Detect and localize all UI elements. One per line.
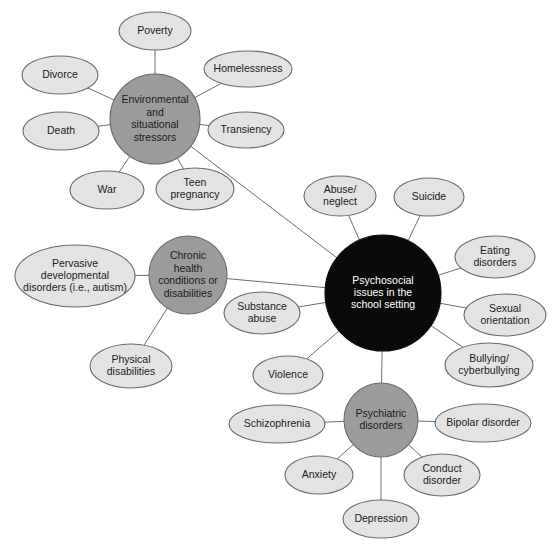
node-war[interactable]: War	[70, 171, 144, 209]
node-label-line: Substance	[237, 300, 287, 312]
node-label-violence: Violence	[268, 368, 308, 380]
node-label-line: Conduct	[422, 462, 461, 474]
node-label-war: War	[98, 183, 117, 195]
node-label-line: Physical	[111, 353, 150, 365]
node-label-divorce: Divorce	[42, 68, 78, 80]
edge-psychiatric-disorders-to-anxiety	[337, 445, 353, 459]
node-label-homelessness: Homelessness	[214, 62, 283, 74]
node-label-line: disorder	[423, 474, 461, 486]
node-suicide[interactable]: Suicide	[394, 178, 464, 216]
node-label-line: Violence	[268, 368, 308, 380]
node-label-line: Homelessness	[214, 62, 283, 74]
node-environmental-stressors[interactable]: Environmentalandsituationalstressors	[110, 74, 200, 164]
node-label-line: situational	[131, 118, 178, 130]
node-label-line: Eating	[480, 244, 510, 256]
node-abuse-neglect[interactable]: Abuse/neglect	[304, 176, 376, 216]
node-label-line: abuse	[248, 312, 277, 324]
edge-psychosocial-issues-to-violence	[307, 331, 339, 359]
node-label-poverty: Poverty	[137, 24, 173, 36]
node-label-line: health	[174, 262, 203, 274]
node-pervasive-developmental-disorders[interactable]: Pervasivedevelopmentaldisorders (i.e., a…	[15, 245, 135, 307]
node-label-death: Death	[47, 124, 75, 136]
node-label-bipolar-disorder: Bipolar disorder	[446, 416, 520, 428]
node-transiency[interactable]: Transiency	[208, 112, 284, 148]
node-label-line: Psychiatric	[356, 407, 407, 419]
node-chronic-health[interactable]: Chronichealthconditions ordisabilities	[149, 236, 227, 314]
node-label-depression: Depression	[354, 512, 407, 524]
edge-psychosocial-issues-to-abuse-neglect	[349, 215, 360, 240]
node-label-line: Bullying/	[469, 352, 509, 364]
node-label-line: issues in the	[354, 286, 413, 298]
edge-chronic-health-to-physical-disabilities	[144, 308, 167, 345]
node-label-schizophrenia: Schizophrenia	[244, 417, 311, 429]
edge-psychosocial-issues-to-sexual-orientation	[440, 303, 466, 308]
node-label-line: Depression	[354, 512, 407, 524]
node-psychiatric-disorders[interactable]: Psychiatricdisorders	[344, 383, 418, 457]
node-label-line: disabilities	[107, 365, 155, 377]
edge-psychiatric-disorders-to-bipolar-disorder	[418, 421, 435, 422]
node-label-line: Divorce	[42, 68, 78, 80]
node-label-line: Suicide	[412, 190, 447, 202]
concept-map-canvas: PovertyHomelessnessTransiencyTeenpregnan…	[0, 0, 552, 545]
node-conduct-disorder[interactable]: Conductdisorder	[404, 454, 480, 496]
node-label-line: Psychosocial	[352, 273, 413, 285]
node-sexual-orientation[interactable]: Sexualorientation	[464, 294, 546, 336]
edge-psychosocial-issues-to-substance-abuse	[298, 302, 325, 307]
node-label-line: Transiency	[221, 123, 273, 135]
edge-psychosocial-issues-to-suicide	[408, 215, 420, 240]
node-label-line: cyberbullying	[458, 364, 519, 376]
edge-environmental-stressors-to-teen-pregnancy	[177, 158, 183, 169]
node-label-line: conditions or	[158, 274, 218, 286]
node-label-line: Death	[47, 124, 75, 136]
node-label-line: Chronic	[170, 249, 206, 261]
edge-environmental-stressors-to-death	[98, 125, 111, 127]
node-label-line: disorders	[473, 256, 516, 268]
edge-psychiatric-disorders-to-psychosocial-issues	[382, 351, 383, 383]
node-label-line: stressors	[134, 130, 177, 142]
node-teen-pregnancy[interactable]: Teenpregnancy	[156, 168, 234, 210]
node-divorce[interactable]: Divorce	[22, 56, 98, 94]
node-label-line: disorders (i.e., autism)	[23, 281, 127, 293]
edge-psychosocial-issues-to-bullying-cyberbullying	[431, 326, 463, 348]
node-psychosocial-issues[interactable]: Psychosocialissues in theschool setting	[325, 235, 441, 351]
edge-environmental-stressors-to-transiency	[200, 124, 210, 125]
node-label-line: orientation	[480, 314, 529, 326]
edge-psychiatric-disorders-to-schizophrenia	[325, 421, 344, 422]
node-label-line: Bipolar disorder	[446, 416, 520, 428]
node-bullying-cyberbullying[interactable]: Bullying/cyberbullying	[445, 343, 533, 387]
node-label-line: neglect	[323, 195, 357, 207]
node-label-line: developmental	[41, 269, 109, 281]
node-anxiety[interactable]: Anxiety	[285, 456, 353, 494]
node-label-line: Poverty	[137, 24, 173, 36]
node-label-conduct-disorder: Conductdisorder	[422, 462, 461, 486]
node-label-line: Anxiety	[302, 468, 337, 480]
edge-environmental-stressors-to-homelessness	[195, 83, 222, 97]
node-eating-disorders[interactable]: Eatingdisorders	[455, 236, 535, 278]
node-label-abuse-neglect: Abuse/neglect	[323, 183, 357, 207]
node-label-line: War	[98, 183, 117, 195]
node-substance-abuse[interactable]: Substanceabuse	[224, 292, 300, 334]
node-label-psychosocial-issues: Psychosocialissues in theschool setting	[351, 273, 415, 310]
node-label-line: Schizophrenia	[244, 417, 311, 429]
node-depression[interactable]: Depression	[343, 500, 419, 538]
node-schizophrenia[interactable]: Schizophrenia	[229, 405, 325, 443]
node-label-line: school setting	[351, 298, 415, 310]
node-label-line: Environmental	[121, 93, 188, 105]
edge-environmental-stressors-to-divorce	[88, 88, 114, 100]
node-label-suicide: Suicide	[412, 190, 447, 202]
edge-psychiatric-disorders-to-conduct-disorder	[408, 445, 422, 457]
node-physical-disabilities[interactable]: Physicaldisabilities	[90, 344, 172, 388]
node-death[interactable]: Death	[23, 112, 99, 150]
node-label-line: disabilities	[164, 286, 212, 298]
node-label-line: Abuse/	[324, 183, 357, 195]
node-violence[interactable]: Violence	[253, 356, 323, 394]
node-label-line: Teen	[184, 176, 207, 188]
edge-environmental-stressors-to-war	[119, 156, 130, 172]
node-homelessness[interactable]: Homelessness	[204, 51, 292, 87]
node-bipolar-disorder[interactable]: Bipolar disorder	[435, 404, 531, 442]
node-poverty[interactable]: Poverty	[119, 12, 191, 50]
node-label-line: and	[146, 106, 164, 118]
node-label-line: pregnancy	[170, 188, 220, 200]
edge-psychosocial-issues-to-eating-disorders	[438, 268, 461, 275]
edge-chronic-health-to-psychosocial-issues	[227, 279, 325, 288]
